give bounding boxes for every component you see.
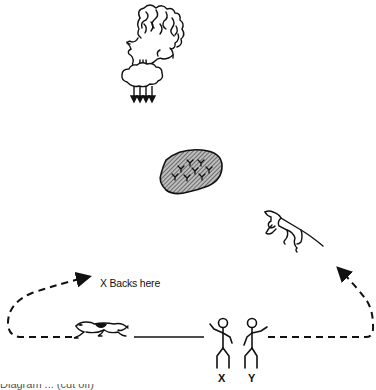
person-x-icon xyxy=(210,319,232,369)
left-dog-patch xyxy=(95,323,107,328)
wind-face-icon xyxy=(127,5,184,72)
wind-cloud-icon xyxy=(122,63,163,87)
cutoff-caption: Diagram ... (cut off) xyxy=(0,384,220,390)
path-label-x-backs-here: X Backs here xyxy=(100,277,160,289)
dashed-path-left xyxy=(8,277,88,337)
wind-arrows-icon xyxy=(131,86,155,102)
right-dog-icon xyxy=(265,211,323,252)
diagram-canvas xyxy=(0,0,376,390)
person-y-label: Y xyxy=(248,372,255,384)
person-x-label: X xyxy=(218,372,225,384)
dashed-path-right xyxy=(268,269,373,337)
person-y-icon xyxy=(244,319,267,369)
cutoff-caption-text: Diagram ... (cut off) xyxy=(0,384,94,390)
flock-icon xyxy=(160,150,222,194)
